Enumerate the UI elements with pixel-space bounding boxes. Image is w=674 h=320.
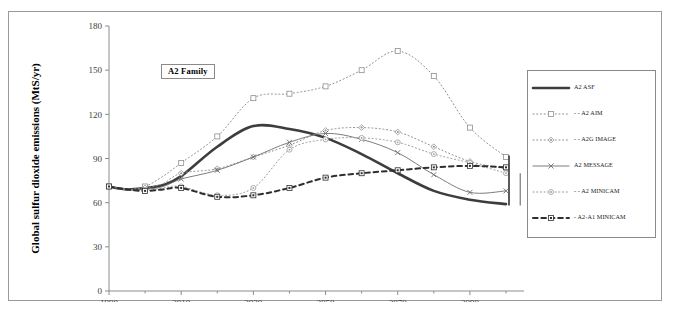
data-point-marker (549, 216, 554, 221)
data-point-marker (431, 144, 437, 150)
x-tick-label: 2010 (172, 298, 191, 302)
data-point-marker (179, 160, 184, 165)
data-point-marker (504, 155, 509, 160)
x-tick-label: 1990 (100, 298, 119, 302)
y-tick-label: 180 (89, 21, 103, 31)
legend-item-a2-minicam[interactable]: - - A2 MINICAM (531, 182, 655, 198)
y-tick-label: 60 (93, 198, 103, 208)
data-point-marker (467, 125, 472, 130)
data-point-marker (215, 194, 220, 199)
series-a2-message (107, 131, 509, 195)
y-tick-label: 90 (93, 154, 103, 164)
x-tick-label: 2090 (461, 298, 480, 302)
legend-swatch-icon (531, 132, 571, 144)
data-point-marker (467, 163, 472, 168)
y-axis-title: Global sulfur dioxide emissions (MtS/yr) (29, 63, 42, 254)
legend-item-label: - A2-A1 MINICAM (574, 213, 626, 220)
data-point-marker (323, 175, 328, 180)
series-line (109, 133, 506, 193)
data-point-marker (359, 135, 364, 140)
chart-legend: A2 ASF- - A2 AIM- - A2G IMAGEA2 MESSAGE-… (527, 70, 656, 238)
data-point-marker (548, 137, 554, 143)
data-point-marker (179, 185, 184, 190)
data-point-marker (287, 91, 292, 96)
data-point-marker (431, 152, 436, 157)
x-tick-label: 2070 (389, 298, 408, 302)
legend-item-label: - - A2G IMAGE (574, 135, 616, 142)
figure-caption-stub (10, 305, 160, 315)
data-point-marker (107, 184, 112, 189)
legend-item-a2-message[interactable]: A2 MESSAGE (531, 156, 655, 172)
data-point-marker (215, 134, 220, 139)
data-point-marker (395, 140, 400, 145)
legend-item-a2-a1-minicam[interactable]: - A2-A1 MINICAM (531, 208, 655, 224)
data-point-marker (504, 165, 509, 170)
data-point-marker (395, 129, 401, 135)
legend-item-a2-asf[interactable]: A2 ASF (531, 78, 655, 94)
legend-item-label: - - A2 MINICAM (574, 187, 620, 194)
data-point-marker (431, 165, 436, 170)
data-point-marker (504, 171, 509, 176)
data-point-marker (359, 125, 365, 131)
data-point-marker (395, 150, 400, 155)
data-point-marker (251, 96, 256, 101)
data-point-marker (323, 84, 328, 89)
data-point-marker (359, 68, 364, 73)
chart-annotation-a2-family: A2 Family (161, 64, 215, 79)
series-line (109, 138, 506, 196)
y-tick-label: 30 (93, 242, 103, 252)
data-point-marker (251, 185, 256, 190)
data-point-marker (549, 190, 554, 195)
legend-item-label: A2 ASF (574, 83, 595, 90)
data-point-marker (359, 171, 364, 176)
legend-swatch-icon (531, 106, 571, 118)
data-point-marker (395, 168, 400, 173)
legend-swatch-icon (531, 184, 571, 196)
data-point-marker (287, 185, 292, 190)
y-tick-label: 120 (89, 110, 103, 120)
legend-swatch-icon (531, 80, 571, 92)
legend-item-label: - - A2 AIM (574, 109, 603, 116)
data-point-marker (431, 74, 436, 79)
data-point-marker (323, 128, 329, 134)
legend-item-label: A2 MESSAGE (574, 161, 613, 168)
legend-swatch-icon (531, 158, 571, 170)
y-tick-label: 0 (98, 286, 103, 296)
data-point-marker (287, 147, 292, 152)
legend-item-a2-aim[interactable]: - - A2 AIM (531, 104, 655, 120)
x-tick-label: 2050 (317, 298, 336, 302)
legend-swatch-icon (531, 210, 571, 222)
data-point-marker (549, 112, 554, 117)
data-point-marker (395, 49, 400, 54)
data-point-marker (323, 137, 328, 142)
data-point-marker (431, 172, 436, 177)
y-tick-label: 150 (89, 65, 103, 75)
data-point-marker (251, 193, 256, 198)
x-tick-label: 2030 (244, 298, 263, 302)
legend-item-a2g-image[interactable]: - - A2G IMAGE (531, 130, 655, 146)
data-point-marker (143, 188, 148, 193)
